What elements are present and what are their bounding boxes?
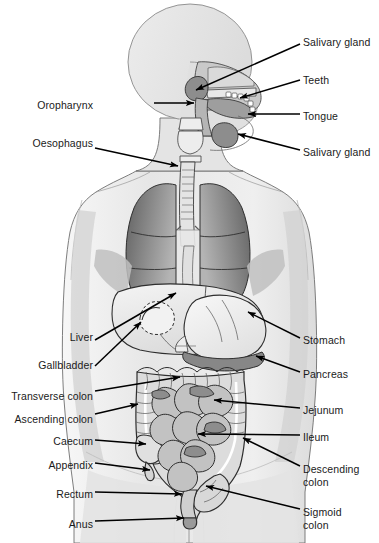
label-liver: Liver [70, 331, 93, 344]
label-descending-colon: Descending colon [303, 463, 359, 488]
salivary-gland-lower-shape [212, 123, 238, 148]
label-teeth: Teeth [303, 74, 329, 87]
label-oesophagus: Oesophagus [32, 137, 93, 150]
leader-ileum [198, 434, 300, 435]
anatomy-figure: OropharynxOesophagusLiverGallbladderTran… [0, 0, 379, 543]
label-sigmoid-colon: Sigmoid colon [303, 506, 342, 531]
label-ascending-colon: Ascending colon [14, 413, 93, 426]
label-transverse-colon: Transverse colon [11, 390, 93, 403]
anus-shape [183, 518, 197, 529]
gallbladder-shape [140, 302, 175, 335]
label-stomach: Stomach [303, 334, 345, 347]
label-salivary-gland-upper: Salivary gland [303, 36, 370, 49]
label-gallbladder: Gallbladder [38, 359, 93, 372]
label-oropharynx: Oropharynx [37, 99, 93, 112]
label-pancreas: Pancreas [303, 368, 348, 381]
label-salivary-gland-lower: Salivary gland [303, 146, 370, 159]
salivary-gland-upper-shape [185, 76, 208, 100]
label-appendix: Appendix [48, 459, 93, 472]
label-rectum: Rectum [56, 488, 93, 501]
label-ileum: Ileum [303, 431, 329, 444]
label-caecum: Caecum [53, 435, 93, 448]
label-tongue: Tongue [303, 110, 338, 123]
label-anus: Anus [69, 518, 93, 531]
label-jejunum: Jejunum [303, 404, 343, 417]
leader-salivary-gland-lower [238, 134, 300, 150]
